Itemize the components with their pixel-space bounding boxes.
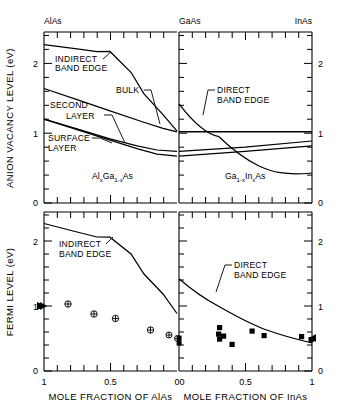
top-right-ytick-2: 2	[318, 59, 323, 69]
data-point-square	[217, 337, 222, 342]
curve-indirect-band-edge-bl	[44, 224, 177, 314]
label-second-layer-line2: LAYER	[66, 111, 95, 121]
top-right-ytick-1: 1	[318, 129, 323, 139]
bottom-left-axes	[44, 212, 177, 371]
top-right-curves	[179, 104, 312, 174]
figure-svg: 0 1 2 0 1 2	[0, 0, 345, 413]
top-left-ytick-0: 0	[33, 198, 38, 208]
data-point-square	[250, 329, 255, 334]
top-right-ytick-0: 0	[318, 198, 323, 208]
leader-bulk-tl	[144, 90, 160, 124]
label-surface-layer-line2: LAYER	[48, 143, 77, 153]
data-point-square	[230, 342, 235, 347]
label-direct-band-edge-br-line2: BAND EDGE	[234, 270, 286, 280]
label-bulk-tl: BULK	[116, 85, 139, 95]
data-point-square	[177, 336, 182, 341]
bottom-right-y-ticks	[304, 215, 312, 371]
curve-second-layer-tr	[179, 141, 312, 151]
curve-direct-band-edge-tr	[179, 104, 312, 174]
bottom-right-ytick-1: 1	[318, 302, 323, 312]
data-point-square	[262, 333, 267, 338]
top-row-bottom-ticks	[57, 195, 298, 203]
label-direct-band-edge-br-line1: DIRECT	[234, 260, 268, 270]
bottom-right-ytick-2: 2	[318, 237, 323, 247]
data-point-circle-plus	[112, 315, 118, 321]
data-point-circle-plus	[91, 311, 97, 317]
corner-label-alas: AlAs	[44, 16, 62, 26]
curve-direct-band-edge-br	[179, 279, 312, 343]
corner-label-gaas: GaAs	[179, 16, 201, 26]
bottom-right-axes	[179, 212, 312, 371]
data-point-circle-plus	[65, 301, 71, 307]
top-right-top-ticks	[192, 32, 298, 40]
data-point-square	[299, 334, 304, 339]
top-left-top-ticks	[57, 32, 163, 40]
data-point-square	[217, 325, 222, 330]
composition-formula-algaas: AlxGa1-xAs	[92, 171, 133, 183]
bottom-row-x-ticks	[57, 363, 298, 371]
bottom-left-data-points	[65, 301, 181, 342]
leader-indirect-tl	[103, 52, 111, 59]
xlabel-mole-fraction-inas: MOLE FRACTION OF InAs	[184, 391, 308, 402]
bottom-right-xtick-05: 0.5	[239, 377, 252, 387]
bottom-right-xtick-0: 0	[179, 377, 184, 387]
top-left-ytick-1: 1	[33, 129, 38, 139]
leader-direct-tr	[203, 90, 215, 115]
leader-direct-br	[216, 265, 232, 292]
leader-indirect-bl	[106, 237, 113, 244]
figure-panel-grid: 0 1 2 0 1 2	[0, 0, 345, 413]
top-left-ytick-2: 2	[33, 59, 38, 69]
bottom-left-y-ticks	[44, 215, 52, 371]
bottom-right-curves	[179, 279, 312, 343]
label-second-layer-line1: SECOND	[50, 100, 88, 110]
ylabel-anion-vacancy-level: ANION VACANCY LEVEL (eV)	[4, 48, 15, 188]
bottom-left-curves	[44, 224, 177, 314]
bottom-left-top-ticks	[57, 212, 163, 220]
bottom-right-ytick-0: 0	[318, 366, 323, 376]
bottom-right-top-ticks	[192, 212, 298, 220]
composition-formula-gainas: Ga1-xInxAs	[225, 171, 265, 183]
data-point-circle-plus	[166, 332, 172, 338]
bottom-left-xtick-1: 1	[41, 377, 46, 387]
data-point-circle-plus	[147, 327, 153, 333]
data-point-square	[216, 332, 221, 337]
label-direct-band-edge-tr-line1: DIRECT	[217, 85, 251, 95]
label-indirect-band-edge-bl-line1: INDIRECT	[59, 239, 102, 249]
corner-label-inas: InAs	[295, 16, 312, 26]
data-point-square	[177, 341, 182, 346]
xlabel-mole-fraction-alas: MOLE FRACTION OF AlAs	[49, 391, 173, 402]
top-right-y-ticks	[304, 36, 312, 204]
label-surface-layer-line1: SURFACE	[48, 133, 90, 143]
bottom-right-data-points	[177, 325, 314, 347]
label-indirect-band-edge-tl-line2: BAND EDGE	[55, 63, 107, 73]
label-indirect-band-edge-bl-line2: BAND EDGE	[59, 249, 111, 259]
bottom-right-xtick-1: 1	[309, 377, 314, 387]
label-direct-band-edge-tr-line2: BAND EDGE	[217, 95, 269, 105]
bottom-left-ytick-0: 0	[33, 366, 38, 376]
ylabel-fermi-level: FERMI LEVEL (eV)	[4, 248, 15, 336]
bottom-left-xtick-05: 0.5	[104, 377, 117, 387]
bottom-left-ytick-2: 2	[33, 237, 38, 247]
